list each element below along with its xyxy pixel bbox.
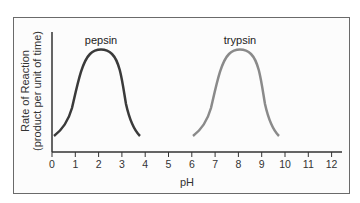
x-tick-label: 2	[96, 158, 102, 170]
x-tick-label: 0	[49, 158, 55, 170]
x-tick-label: 12	[326, 158, 338, 170]
x-tick-label: 5	[166, 158, 172, 170]
x-tick-label: 3	[119, 158, 125, 170]
x-tick-label: 8	[235, 158, 241, 170]
pepsin-curve	[54, 50, 140, 137]
x-tick-label: 9	[259, 158, 265, 170]
y-axis-label-line2: (product per unit of time)	[31, 31, 43, 151]
x-tick-label: 4	[142, 158, 148, 170]
x-tick-label: 10	[279, 158, 291, 170]
x-tick-label: 1	[72, 158, 78, 170]
x-tick-label: 6	[189, 158, 195, 170]
trypsin-label: trypsin	[224, 34, 256, 46]
trypsin-curve	[193, 50, 279, 137]
chart-plot	[0, 0, 360, 203]
x-tick-label: 11	[303, 158, 314, 170]
y-axis-label-line1: Rate of Reaction	[19, 31, 31, 151]
y-axis-label: Rate of Reaction (product per unit of ti…	[16, 32, 46, 150]
pepsin-label: pepsin	[85, 34, 117, 46]
x-axis-label: pH	[180, 176, 194, 188]
x-tick-label: 7	[212, 158, 218, 170]
